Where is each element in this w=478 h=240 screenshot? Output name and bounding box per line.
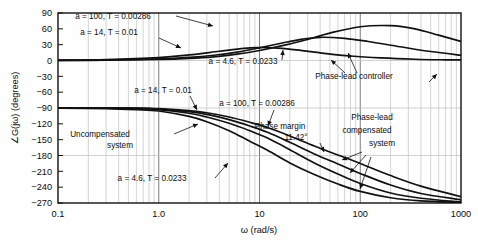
ann-phase-lead-controller: Phase-lead controller: [315, 72, 393, 81]
ann-ctrl-a100: a = 100, T = 0.00286: [75, 12, 151, 21]
y-tick-label: −180: [31, 151, 52, 161]
x-tick-label: 0.1: [52, 209, 65, 219]
x-tick-label: 100: [353, 209, 368, 219]
y-tick-label: −150: [31, 135, 52, 145]
y-tick-label: 30: [42, 40, 52, 50]
y-tick-label: −270: [31, 198, 52, 208]
ann-uncompensated-2: system: [107, 141, 133, 150]
y-tick-label: −240: [31, 182, 52, 192]
plot-canvas: 9060300−30−60−90−120−150−180−210−240−270…: [0, 0, 478, 240]
y-tick-label: −210: [31, 167, 52, 177]
ann-compensated-2: compensated: [342, 126, 392, 135]
ann-ctrl-a46: a = 4.6, T = 0.0233: [209, 57, 278, 66]
y-tick-label: −120: [31, 119, 52, 129]
ann-phase-margin-value: 11.42°: [284, 133, 307, 142]
x-axis-title: ω (rad/s): [241, 225, 277, 235]
ann-uncompensated: Uncompensated: [70, 130, 130, 139]
ann-ctrl-a14: a = 14, T = 0.01: [80, 28, 138, 37]
y-tick-label: 60: [42, 24, 52, 34]
ann-compensated-3: system: [369, 139, 395, 148]
ann-sys-a14: a = 14, T = 0.01: [134, 86, 192, 95]
y-axis-title: ∠G(jω) (degrees): [10, 72, 20, 145]
ann-sys-a100: a = 100, T = 0.00286: [219, 99, 295, 108]
ann-phase-margin: Phase margin: [255, 122, 306, 131]
y-tick-label: −30: [36, 72, 52, 82]
ann-sys-a46: a = 4.6, T = 0.0233: [118, 174, 187, 183]
x-tick-label: 10: [254, 209, 264, 219]
y-tick-label: 0: [47, 56, 52, 66]
ann-compensated: Phase-lead: [351, 113, 393, 122]
bode-phase-plot-figure: 9060300−30−60−90−120−150−180−210−240−270…: [0, 0, 478, 240]
x-tick-label: 1.0: [152, 209, 165, 219]
y-tick-label: −90: [36, 103, 52, 113]
y-tick-label: 90: [42, 8, 52, 18]
y-tick-label: −60: [36, 87, 52, 97]
x-tick-label: 1000: [451, 209, 471, 219]
